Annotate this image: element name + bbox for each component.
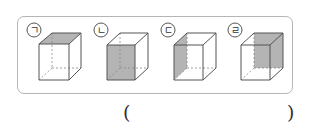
option-a[interactable]: ㄱ <box>27 23 81 80</box>
svg-text:ㄹ: ㄹ <box>231 25 240 36</box>
option-label-b-icon: ㄴ <box>94 23 108 37</box>
option-label-d-icon: ㄹ <box>228 23 242 37</box>
svg-text:ㄴ: ㄴ <box>97 25 106 36</box>
svg-text:ㄷ: ㄷ <box>164 25 173 36</box>
option-b[interactable]: ㄴ <box>94 23 148 80</box>
cube-left-shaded-icon <box>174 33 216 80</box>
option-label-c-icon: ㄷ <box>161 23 175 37</box>
cube-back-shaded-icon <box>241 33 283 80</box>
option-c[interactable]: ㄷ <box>161 23 216 80</box>
option-label-a-icon: ㄱ <box>27 23 41 37</box>
answer-blank[interactable] <box>135 102 283 124</box>
option-d[interactable]: ㄹ <box>228 23 283 80</box>
answer-open-paren: ( <box>123 102 130 122</box>
answer-close-paren: ) <box>287 102 294 122</box>
svg-text:ㄱ: ㄱ <box>30 25 39 36</box>
cube-top-shaded-icon <box>39 33 81 80</box>
cube-front-shaded-icon <box>107 33 148 80</box>
